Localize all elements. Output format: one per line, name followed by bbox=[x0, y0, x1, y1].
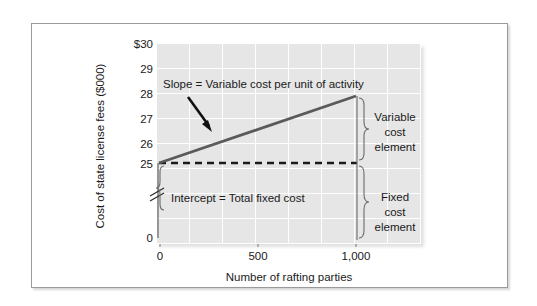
y-tick-30: $30 bbox=[134, 38, 153, 50]
slope-annotation-text: Slope = Variable cost per unit of activi… bbox=[163, 78, 364, 90]
x-tick-1000: 1,000 bbox=[342, 250, 371, 262]
cost-behavior-chart: $30 29 28 27 26 25 0 0 500 1,000 Cost of… bbox=[0, 0, 537, 306]
variable-cost-element-label: Variable cost element bbox=[366, 110, 424, 155]
y-tick-25: 25 bbox=[140, 158, 153, 170]
intercept-annotation-text: Intercept = Total fixed cost bbox=[171, 192, 305, 204]
variable-cost-line-2: cost bbox=[366, 125, 424, 140]
x-axis-ticks bbox=[160, 244, 356, 247]
x-axis-title: Number of rafting parties bbox=[157, 271, 421, 283]
fixed-cost-line-2: cost bbox=[366, 205, 424, 220]
variable-cost-line-1: Variable bbox=[366, 110, 424, 125]
y-tick-28: 28 bbox=[140, 88, 153, 100]
x-tick-0: 0 bbox=[157, 250, 163, 262]
y-tick-0: 0 bbox=[147, 232, 153, 244]
y-tick-27: 27 bbox=[140, 113, 153, 125]
variable-cost-line-3: element bbox=[366, 140, 424, 155]
y-tick-29: 29 bbox=[140, 63, 153, 75]
x-tick-500: 500 bbox=[248, 250, 267, 262]
fixed-cost-element-label: Fixed cost element bbox=[366, 190, 424, 235]
fixed-cost-line-1: Fixed bbox=[366, 190, 424, 205]
y-tick-26: 26 bbox=[140, 138, 153, 150]
y-axis-tick-labels: $30 29 28 27 26 25 0 bbox=[112, 0, 153, 306]
fixed-cost-line-3: element bbox=[366, 220, 424, 235]
y-axis-title: Cost of state license fees ($000) bbox=[94, 36, 106, 256]
